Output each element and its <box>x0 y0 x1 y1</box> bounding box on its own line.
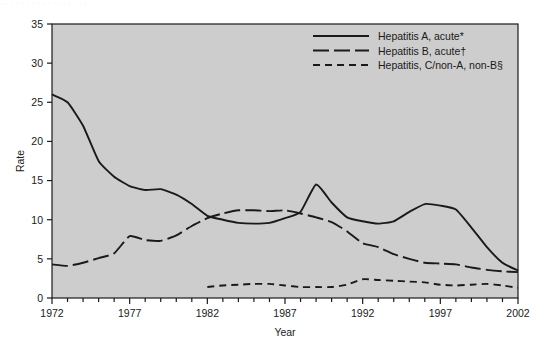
x-tick-label: 1982 <box>196 307 220 319</box>
x-axis-title: Year <box>274 326 296 338</box>
y-tick-label: 0 <box>37 292 43 304</box>
legend-label-3: Hepatitis, C/non-A, non-B§ <box>378 59 503 71</box>
legend-label-2: Hepatitis B, acute† <box>378 45 466 57</box>
y-tick-label: 35 <box>31 18 43 30</box>
y-tick-label: 30 <box>31 57 43 69</box>
chart-canvas: 05101520253035 1972197719821987199219972… <box>0 0 548 348</box>
legend-label-1: Hepatitis A, acute* <box>378 30 464 42</box>
x-tick-label: 1977 <box>118 307 142 319</box>
y-tick-label: 20 <box>31 135 43 147</box>
y-tick-label: 25 <box>31 96 43 108</box>
y-tick-label: 10 <box>31 214 43 226</box>
x-tick-label: 1992 <box>351 307 375 319</box>
hepatitis-rate-line-chart: 05101520253035 1972197719821987199219972… <box>0 0 548 348</box>
x-tick-label: 1997 <box>429 307 453 319</box>
y-tick-label: 15 <box>31 174 43 186</box>
x-tick-label: 1972 <box>40 307 64 319</box>
y-axis-ticks: 05101520253035 <box>31 18 52 304</box>
y-tick-label: 5 <box>37 253 43 265</box>
x-axis-ticks: 1972197719821987199219972002 <box>40 298 530 319</box>
x-tick-label: 1987 <box>273 307 297 319</box>
y-axis-title: Rate <box>14 150 26 172</box>
x-tick-label: 2002 <box>506 307 530 319</box>
